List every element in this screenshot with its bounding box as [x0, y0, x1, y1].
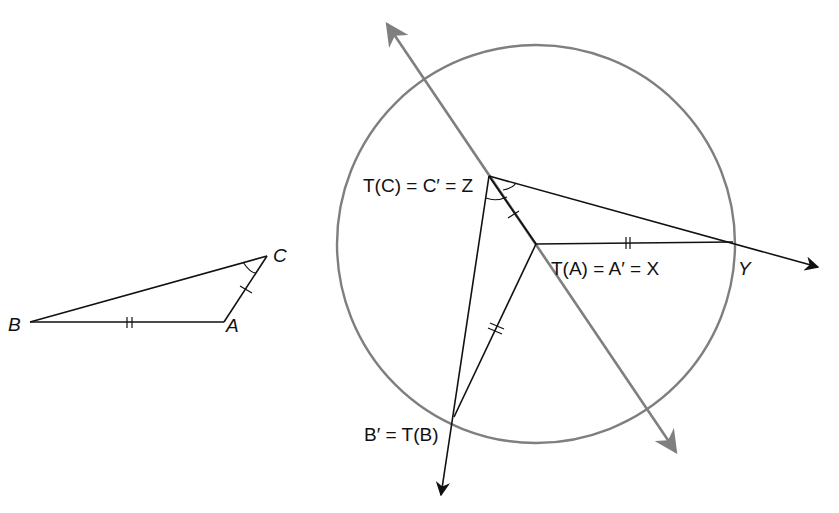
ray-zb [441, 176, 489, 495]
segment-bc [30, 256, 267, 322]
label-b: B [8, 314, 21, 335]
diagram-canvas: B A C T(C) = C′ = Z T(A) = A′ = X Y B′ =… [0, 0, 839, 513]
angle-arc-c [243, 262, 256, 273]
label-x: T(A) = A′ = X [551, 258, 659, 279]
label-a: A [225, 315, 239, 336]
ray-zy [489, 176, 818, 267]
label-y: Y [738, 258, 752, 279]
label-b-prime: B′ = T(B) [364, 424, 438, 445]
angle-arc-z-2 [503, 183, 516, 190]
label-z: T(C) = C′ = Z [363, 175, 474, 196]
geometry-figure: B A C T(C) = C′ = Z T(A) = A′ = X Y B′ =… [0, 0, 839, 513]
label-c: C [273, 245, 287, 266]
segment-xy [536, 242, 733, 244]
triangle-abc: B A C [8, 245, 287, 336]
image-figure: T(C) = C′ = Z T(A) = A′ = X Y B′ = T(B) [363, 175, 818, 495]
